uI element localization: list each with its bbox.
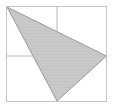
figure-container [0, 0, 114, 109]
triangle-grid-figure [0, 0, 114, 109]
